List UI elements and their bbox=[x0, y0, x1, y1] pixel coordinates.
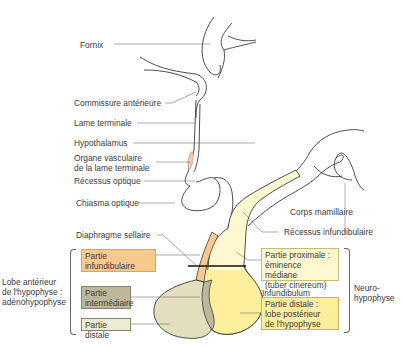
label-lame-terminale: Lame terminale bbox=[74, 118, 132, 128]
label-recessus-optique: Récessus optique bbox=[74, 176, 141, 186]
adeno-brace bbox=[70, 249, 76, 335]
label-organe-vasculaire-1: Organe vasculaire bbox=[74, 153, 142, 163]
label-commissure: Commissure antérieure bbox=[74, 98, 161, 108]
box-prox-line1: Partie proximale : bbox=[265, 250, 335, 260]
box-partie-intermediaire: Partie intermédiaire bbox=[81, 286, 131, 309]
label-hypothalamus: Hypothalamus bbox=[74, 138, 128, 148]
adeno-title-3: adénohypophyse bbox=[2, 297, 66, 307]
box-prox-line2: éminence médiane bbox=[265, 260, 335, 280]
neuro-brace bbox=[344, 248, 350, 333]
box-partie-distale-neuro: Partie distale : lobe postérieur de l'hy… bbox=[261, 297, 339, 330]
label-organe-vasculaire-2: de la lame terminale bbox=[74, 163, 149, 173]
box-inter-line2: intermédiaire bbox=[85, 298, 127, 308]
box-partie-infundibulaire: Partie infundibulaire bbox=[81, 249, 156, 272]
box-partie-proximale: Partie proximale : éminence médiane (tub… bbox=[261, 248, 339, 281]
label-chiasma-optique: Chiasma optique bbox=[76, 198, 139, 208]
box-post-line1: Partie distale : bbox=[265, 299, 335, 309]
label-fornix: Fornix bbox=[80, 40, 103, 50]
box-prox-line3: (tuber cinereum) bbox=[265, 280, 335, 290]
box-inter-line1: Partie bbox=[85, 288, 127, 298]
label-diaphragme: Diaphragme sellaire bbox=[76, 230, 150, 240]
adeno-title-2: de l'hypophyse : bbox=[2, 287, 62, 297]
box-infund-line2: infundibulaire bbox=[85, 261, 152, 271]
neuro-title-1: Neuro- bbox=[354, 283, 380, 293]
label-recessus-infundibulaire: Récessus infundibulaire bbox=[284, 227, 373, 237]
adeno-title-1: Lobe antérieur bbox=[2, 277, 56, 287]
box-post-line3: de l'hypophyse bbox=[265, 319, 335, 329]
neuro-title-2: hypophyse bbox=[354, 293, 395, 303]
box-infund-line1: Partie bbox=[85, 251, 152, 261]
label-corps-mamillaire: Corps mamillaire bbox=[290, 207, 353, 217]
box-partie-distale-adeno: Partie distale bbox=[81, 318, 131, 331]
box-post-line2: lobe postérieur bbox=[265, 309, 335, 319]
